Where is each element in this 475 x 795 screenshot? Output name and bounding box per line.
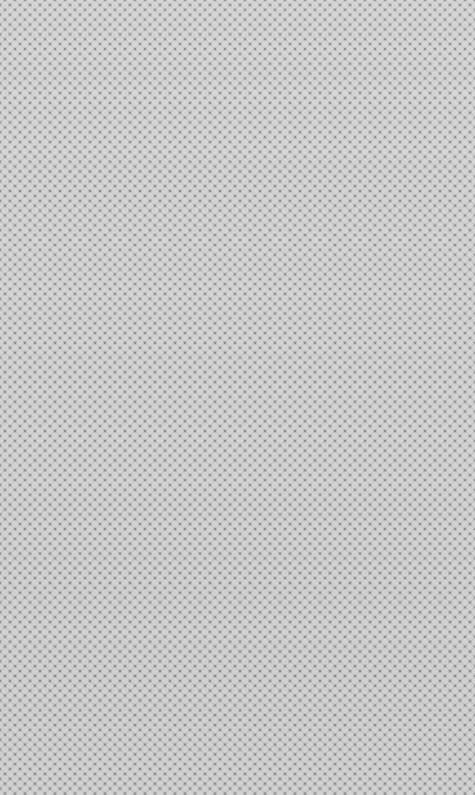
- checker-pattern-background: [0, 0, 475, 795]
- pattern-shading-overlay: [0, 0, 475, 795]
